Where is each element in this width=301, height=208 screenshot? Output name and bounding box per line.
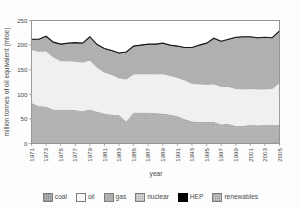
y-tick-label: 250 (17, 17, 28, 24)
y-axis-ticks: 050100150200250 (17, 17, 31, 147)
x-tick-label: 1989 (159, 147, 166, 161)
x-tick-label: 1991 (174, 147, 181, 161)
chart-page: 050100150200250 197119731975197719791981… (0, 0, 301, 208)
stacked-area-chart: 050100150200250 197119731975197719791981… (0, 0, 301, 208)
y-tick-label: 50 (21, 115, 28, 122)
legend-label-renewables: renewables (224, 194, 258, 201)
x-tick-label: 2005 (276, 147, 283, 161)
legend-swatch-HEP (178, 193, 188, 202)
legend-label-oil: oil (88, 194, 95, 201)
chart-container: 050100150200250 197119731975197719791981… (0, 0, 301, 208)
x-tick-label: 1975 (57, 147, 64, 161)
x-tick-label: 1985 (130, 147, 137, 161)
x-tick-label: 1995 (203, 147, 210, 161)
legend-item-coal[interactable]: coal (43, 193, 67, 202)
legend-swatch-renewables (212, 193, 222, 202)
legend-item-HEP[interactable]: HEP (178, 193, 204, 202)
x-tick-label: 2003 (261, 147, 268, 161)
x-tick-label: 1987 (144, 147, 151, 161)
y-axis-title: million tonnes of oil equivalent (mtoe) (3, 28, 11, 137)
x-axis-ticks: 1971197319751977197919811983198519871989… (28, 144, 283, 162)
legend-label-HEP: HEP (190, 194, 204, 201)
x-tick-label: 1979 (86, 147, 93, 161)
x-tick-label: 1981 (101, 147, 108, 161)
legend-item-gas[interactable]: gas (104, 193, 127, 202)
x-tick-label: 1977 (71, 147, 78, 161)
legend-item-renewables[interactable]: renewables (212, 193, 258, 202)
x-tick-label: 2001 (247, 147, 254, 161)
x-tick-label: 1973 (42, 147, 49, 161)
legend-item-nuclear[interactable]: nuclear (135, 193, 169, 202)
x-tick-label: 1993 (188, 147, 195, 161)
y-tick-label: 100 (17, 91, 28, 98)
area-bands (32, 31, 280, 144)
legend-label-coal: coal (55, 194, 67, 201)
chart-legend: coaloilgasnuclearHEPrenewables (0, 190, 301, 204)
x-axis-title: year (150, 170, 164, 178)
y-tick-label: 150 (17, 66, 28, 73)
x-tick-label: 1997 (217, 147, 224, 161)
legend-label-nuclear: nuclear (147, 194, 169, 201)
x-tick-label: 1983 (115, 147, 122, 161)
legend-swatch-coal (43, 193, 53, 202)
y-tick-label: 0 (24, 140, 28, 147)
legend-swatch-oil (76, 193, 86, 202)
y-tick-label: 200 (17, 41, 28, 48)
legend-label-gas: gas (116, 194, 127, 201)
x-tick-label: 1999 (232, 147, 239, 161)
x-tick-label: 1971 (28, 147, 35, 161)
legend-swatch-gas (104, 193, 114, 202)
legend-swatch-nuclear (135, 193, 145, 202)
legend-item-oil[interactable]: oil (76, 193, 95, 202)
